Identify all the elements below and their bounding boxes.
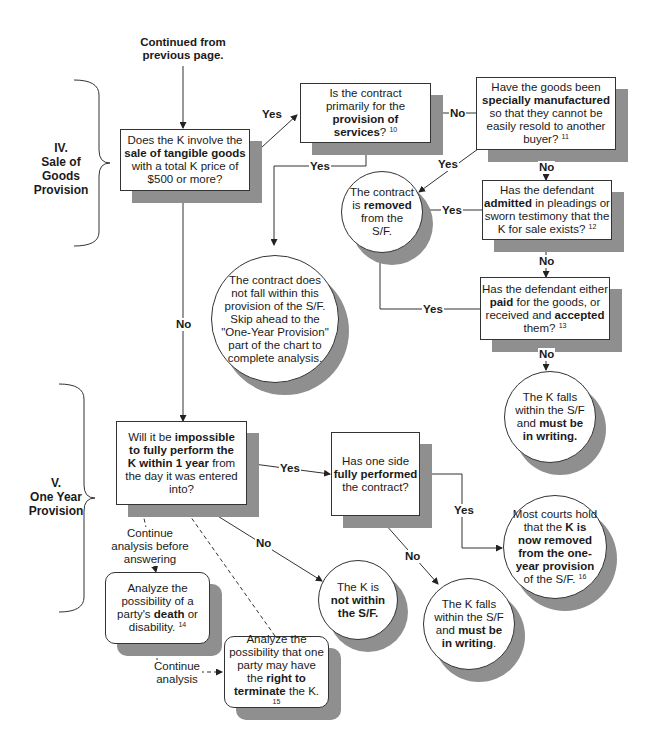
section-one-year: V. One Year Provision bbox=[22, 476, 90, 518]
question-paid-or-accepted[interactable]: Has the defendant either paid for the go… bbox=[480, 277, 610, 340]
text: analysis bbox=[156, 673, 198, 685]
text-bold: not within the S/F. bbox=[331, 594, 385, 619]
continue-before-answering-label: Continue analysis before answering bbox=[106, 527, 194, 566]
text: them? bbox=[524, 322, 559, 334]
edge-label-yes-services: Yes bbox=[261, 108, 283, 121]
question-provision-of-services[interactable]: Is the contract primarily for the provis… bbox=[300, 83, 431, 143]
edge-label-yes-one-year: Yes bbox=[279, 462, 301, 475]
edge-label-yes-manufactured: Yes bbox=[437, 158, 459, 171]
text-bold: death bbox=[154, 608, 185, 620]
result-courts-hold-removed[interactable]: Most courts hold that the K is now remov… bbox=[503, 495, 607, 599]
text-bold: specially manufactured bbox=[482, 94, 610, 106]
text: The contract does not fall within this p… bbox=[220, 274, 330, 365]
edge-label-no-performed: No bbox=[404, 550, 421, 563]
text: Have the goods been bbox=[491, 81, 600, 93]
analyze-death-disability[interactable]: Analyze the possibility of a party's dea… bbox=[105, 572, 210, 644]
text: with a total K price of $500 or more? bbox=[132, 160, 239, 185]
text: Will it be bbox=[128, 431, 175, 443]
result-not-within-provision[interactable]: The contract does not fall within this p… bbox=[211, 255, 339, 383]
edge-label-yes-performed: Yes bbox=[453, 504, 475, 517]
edge-label-yes-paid: Yes bbox=[422, 303, 444, 316]
result-not-within-sf[interactable]: The K is not within the S/F. bbox=[318, 560, 398, 640]
text-bold: removed bbox=[364, 199, 412, 211]
question-tangible-goods[interactable]: Does the K involve the sale of tangible … bbox=[120, 129, 250, 191]
text: Continue analysis before answering bbox=[111, 527, 188, 565]
section-iv-line3: Provision bbox=[34, 183, 89, 197]
section-sale-of-goods: IV. Sale of Goods Provision bbox=[26, 141, 96, 197]
footnote-ref[interactable]: 10 bbox=[389, 126, 397, 133]
text: . bbox=[493, 637, 496, 649]
text: so that they cannot be easily resold to … bbox=[487, 107, 606, 145]
continue-analysis-label: Continue analysis bbox=[152, 660, 202, 686]
edge-label-yes-services-down: Yes bbox=[309, 160, 331, 173]
section-v-numeral: V. bbox=[51, 476, 61, 490]
section-v-line2: Provision bbox=[29, 504, 84, 518]
result-contract-removed[interactable]: The contract is removed from the S/F. bbox=[341, 171, 423, 253]
edge-label-no-paid-result: No bbox=[538, 348, 555, 361]
text: ? bbox=[380, 126, 390, 138]
text-bold: admitted bbox=[484, 197, 532, 209]
text: Has the defendant bbox=[500, 184, 594, 196]
analyze-right-to-terminate[interactable]: Analyze the possibility that one party m… bbox=[224, 636, 329, 708]
text-bold: fully performed bbox=[334, 468, 418, 480]
text: the contract? bbox=[342, 481, 408, 493]
edge-label-no-goods: No bbox=[175, 318, 192, 331]
start-label-line2: previous page. bbox=[142, 49, 223, 61]
footnote-ref[interactable]: 13 bbox=[559, 322, 567, 329]
footnote-ref[interactable]: 15 bbox=[273, 698, 281, 705]
text-bold: accepted bbox=[555, 309, 605, 321]
text: Has one side bbox=[342, 455, 409, 467]
question-admitted[interactable]: Has the defendant admitted in pleadings … bbox=[482, 180, 612, 240]
start-label-line1: Continued from bbox=[140, 36, 226, 48]
edge-label-no-manufactured: No bbox=[449, 107, 466, 120]
text-bold: sale of tangible goods bbox=[124, 147, 245, 159]
text: the K. bbox=[286, 685, 319, 697]
edge-label-no-admitted: No bbox=[538, 161, 555, 174]
text: The K is bbox=[337, 581, 379, 593]
question-fully-performed[interactable]: Has one side fully performed the contrac… bbox=[331, 432, 420, 516]
edge-label-no-one-year: No bbox=[255, 537, 272, 550]
text: from the S/F. bbox=[361, 212, 403, 237]
footnote-ref[interactable]: 16 bbox=[579, 573, 587, 580]
continued-from-previous-page-label: Continued from previous page. bbox=[130, 36, 236, 62]
footnote-ref[interactable]: 14 bbox=[178, 621, 186, 628]
text: Continue bbox=[154, 660, 200, 672]
result-must-be-in-writing-goods[interactable]: The K falls within the S/F and must be i… bbox=[504, 371, 596, 463]
section-iv-numeral: IV. bbox=[54, 141, 68, 155]
text: Has the defendant either bbox=[482, 283, 608, 295]
footnote-ref[interactable]: 11 bbox=[562, 133, 569, 140]
footnote-ref[interactable]: 12 bbox=[588, 223, 596, 230]
question-one-year[interactable]: Will it be impossible to fully perform t… bbox=[116, 421, 247, 505]
edge-label-no-paid: No bbox=[538, 255, 555, 268]
edge-label-yes-admitted: Yes bbox=[441, 204, 463, 217]
text: of the S/F. bbox=[524, 573, 579, 585]
text-bold: paid bbox=[490, 296, 514, 308]
section-iv-line1: Sale of bbox=[41, 155, 80, 169]
section-v-line1: One Year bbox=[30, 490, 82, 504]
section-iv-line2: Goods bbox=[42, 169, 80, 183]
question-specially-manufactured[interactable]: Have the goods been specially manufactur… bbox=[476, 77, 616, 150]
text: Is the contract primarily for the bbox=[326, 87, 405, 112]
text: Does the K involve the bbox=[127, 134, 242, 146]
result-must-be-in-writing-one-year[interactable]: The K falls within the S/F and must be i… bbox=[423, 578, 515, 670]
